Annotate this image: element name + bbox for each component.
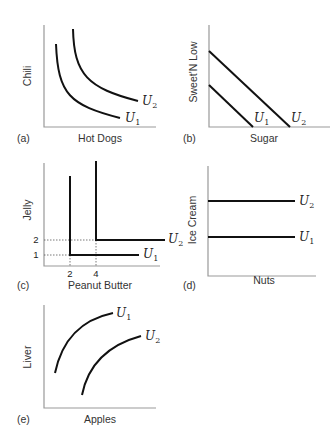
- curve-label-u2-a: U2: [142, 94, 157, 110]
- panel-c: U1 U2 2 1 2 4 Jelly Peanut Butter (c): [17, 161, 183, 291]
- curve-label-u2-c: U2: [168, 232, 183, 248]
- curve-label-u2-d: U2: [299, 194, 314, 210]
- ytick-2-c: 2: [33, 234, 38, 245]
- tag-a: (a): [17, 132, 30, 144]
- tag-b: (b): [183, 132, 196, 144]
- ylabel-a: Chili: [21, 66, 33, 86]
- axes-b: [209, 25, 330, 127]
- line-u1-b: [209, 85, 253, 127]
- line-u2-b: [209, 51, 290, 127]
- curve-label-u2-e: U2: [145, 329, 160, 345]
- ylabel-c: Jelly: [21, 199, 33, 221]
- panel-a: U2 U1 Chili Hot Dogs (a): [17, 25, 157, 144]
- xlabel-b: Sugar: [250, 132, 279, 144]
- curve-label-u1-e: U1: [116, 306, 131, 322]
- curve-label-u1-c: U1: [143, 247, 158, 263]
- xtick-4-c: 4: [93, 268, 98, 279]
- curve-label-u1-a: U1: [125, 111, 140, 127]
- tag-e: (e): [17, 413, 30, 425]
- curve-u1-c: [70, 176, 139, 255]
- panel-e: U1 U2 Liver Apples (e): [17, 305, 160, 425]
- axes-d: [208, 166, 316, 276]
- tag-c: (c): [17, 279, 29, 291]
- panel-b: U1 U2 Sweet'N Low Sugar (b): [183, 25, 330, 144]
- tag-d: (d): [183, 279, 196, 291]
- ylabel-d: Ice Cream: [186, 196, 198, 245]
- curve-u2-a: [73, 29, 138, 101]
- curve-u1-a: [56, 44, 120, 118]
- curve-label-u1-b: U1: [254, 111, 269, 127]
- panel-d: U2 U1 Ice Cream Nuts (d): [183, 166, 316, 291]
- xlabel-a: Hot Dogs: [78, 132, 122, 144]
- curve-u2-c: [96, 161, 165, 240]
- ylabel-b: Sweet'N Low: [187, 41, 199, 102]
- xtick-2-c: 2: [67, 268, 72, 279]
- xlabel-c: Peanut Butter: [68, 279, 133, 291]
- xlabel-d: Nuts: [253, 274, 275, 286]
- ytick-1-c: 1: [33, 249, 38, 260]
- ylabel-e: Liver: [21, 345, 33, 368]
- curve-u2-e: [82, 336, 141, 395]
- curve-label-u1-d: U1: [299, 230, 314, 246]
- curve-label-u2-b: U2: [291, 111, 306, 127]
- indifference-curve-diagram: U2 U1 Chili Hot Dogs (a) U1 U2 Sweet'N L…: [0, 0, 333, 439]
- xlabel-e: Apples: [84, 413, 116, 425]
- curve-u1-e: [55, 313, 113, 373]
